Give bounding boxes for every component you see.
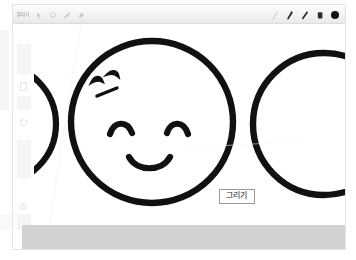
left-eye [110, 124, 132, 134]
circle-icon [19, 118, 28, 127]
sidebar [14, 24, 35, 230]
sidebar-item-thumb-3[interactable] [17, 140, 31, 178]
eyebrow-marks [92, 72, 118, 96]
mouth [129, 157, 170, 168]
pen-small-icon[interactable] [63, 11, 71, 20]
ruler-icon[interactable] [271, 10, 279, 21]
circle-center-face [71, 41, 233, 203]
callout-label[interactable]: 그리기 [219, 189, 255, 204]
pen-icon[interactable] [286, 10, 294, 21]
cursor-icon[interactable] [35, 11, 43, 20]
circle-right-partial [253, 53, 345, 195]
color-swatch[interactable] [331, 11, 340, 20]
right-eye [167, 124, 188, 134]
edge-artifact [0, 30, 9, 110]
circle-left-partial [34, 64, 56, 184]
toolbar-left-group: 말하기 [17, 11, 85, 20]
drawing-canvas[interactable] [34, 24, 345, 225]
eraser-small-icon[interactable] [77, 11, 85, 20]
toolbar: 말하기 [13, 7, 345, 24]
toolbar-tools-group [271, 10, 342, 21]
canvas-artwork [34, 24, 345, 225]
page-icon [19, 82, 28, 91]
status-bar [22, 225, 345, 249]
eraser-icon[interactable] [316, 10, 324, 21]
toolbar-mode-label[interactable]: 말하기 [17, 13, 29, 17]
sidebar-item-thumb-1[interactable] [17, 44, 31, 74]
marker-icon[interactable] [301, 10, 309, 21]
clock-icon [19, 202, 28, 211]
edge-artifact [0, 214, 12, 230]
sidebar-item-thumb-2[interactable] [17, 96, 31, 110]
lasso-icon[interactable] [49, 11, 57, 20]
app-root: 말하기 [0, 0, 356, 260]
